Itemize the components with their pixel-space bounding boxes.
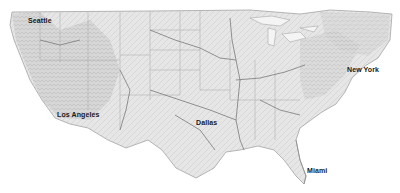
city-label-seattle: Seattle: [28, 17, 52, 24]
city-label-miami: Miami: [307, 167, 327, 174]
city-label-dallas: Dallas: [196, 119, 217, 126]
us-relief-map: Seattle Los Angeles Dallas New York Miam…: [0, 0, 400, 193]
map-graphic: [0, 0, 400, 193]
city-label-los-angeles: Los Angeles: [57, 111, 99, 118]
city-label-new-york: New York: [347, 66, 379, 73]
